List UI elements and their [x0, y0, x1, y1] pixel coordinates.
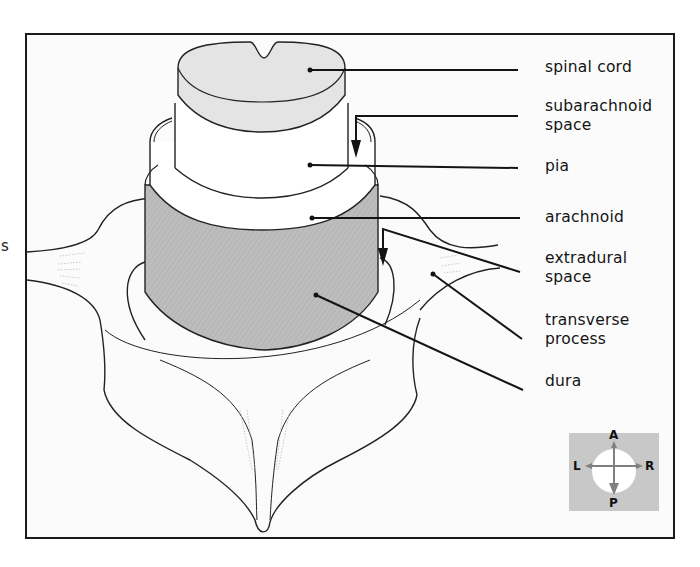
compass-posterior: P [609, 496, 618, 510]
label-pia: pia [545, 157, 569, 176]
orientation-compass: A P L R [569, 433, 659, 511]
label-dura: dura [545, 372, 581, 391]
compass-right: R [645, 459, 654, 473]
label-extradural-space: extradural space [545, 249, 627, 287]
label-subarachnoid-space: subarachnoid space [545, 97, 652, 135]
compass-left: L [573, 459, 581, 473]
label-arachnoid: arachnoid [545, 208, 624, 227]
label-transverse-process: transverse process [545, 311, 630, 349]
label-spinal-cord: spinal cord [545, 58, 632, 77]
compass-anterior: A [609, 428, 618, 442]
